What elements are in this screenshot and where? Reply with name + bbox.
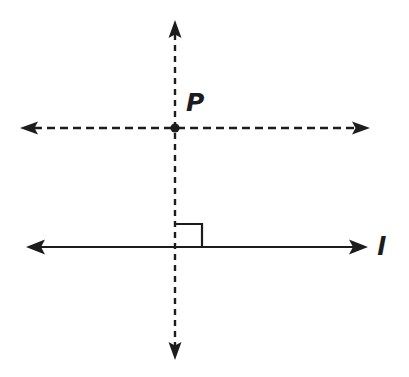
diagram-svg — [0, 0, 409, 377]
right-angle-marker — [175, 224, 202, 247]
point-p-label: P — [186, 90, 204, 115]
parallel-line-arrow-right — [352, 122, 370, 135]
geometry-diagram: P l — [0, 0, 409, 377]
line-l — [26, 240, 368, 255]
parallel-line-through-p — [20, 122, 370, 135]
line-l-label: l — [377, 234, 386, 259]
point-p-dot — [170, 123, 179, 132]
perpendicular-line — [169, 20, 182, 360]
